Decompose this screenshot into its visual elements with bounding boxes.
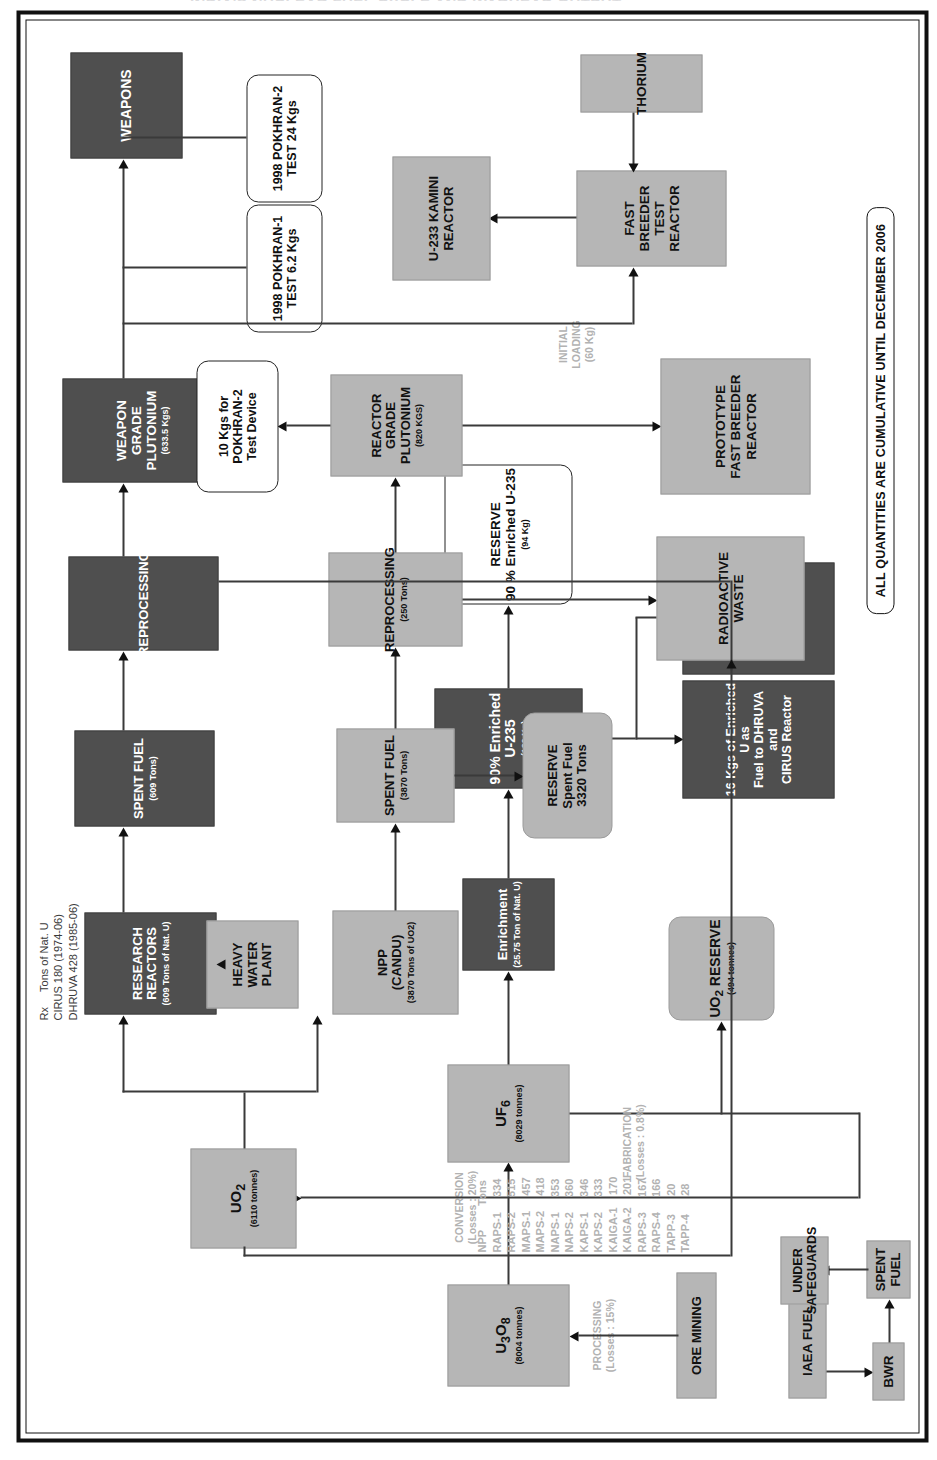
node-uo2-reserve[interactable]: UO2 RESERVE (494 tonnes) <box>668 916 774 1020</box>
node-spent-fuel-609-sub: (609 Tons) <box>147 756 157 800</box>
arrowhead-uf6-to-enrichment <box>503 971 513 980</box>
edge-mining-to-u3o8 <box>578 1335 678 1337</box>
label-initial-loading: INITIAL LOADING (60 Kg) <box>556 296 595 392</box>
node-thorium-label: THORIUM <box>633 52 648 115</box>
node-pfbr-label: PROTOTYPE FAST BREEDER REACTOR <box>712 374 757 478</box>
arrowhead-enriched-to-reserve <box>503 605 513 614</box>
node-uf6-label: UF6 <box>492 1100 512 1127</box>
node-under-safeguards-label: UNDER SAFEGUARDS <box>790 1226 818 1314</box>
node-reactor-grade-pu-label: REACTOR GRADE PLUTONIUM <box>369 386 413 463</box>
node-research-reactors-label: RESEARCH REACTORS <box>130 927 159 1000</box>
node-spent-fuel-3870[interactable]: SPENT FUEL (3870 Tons) <box>336 728 454 822</box>
node-npp-candu[interactable]: NPP (CANDU) (3870 Tons of UO2) <box>332 910 458 1014</box>
node-ore-mining[interactable]: ORE MINING <box>676 1272 716 1398</box>
node-thorium-box[interactable]: THORIUM <box>580 54 702 112</box>
edge-fbtr-to-kamini <box>496 217 576 219</box>
node-reserve-spent-fuel-label: RESERVE Spent Fuel 3320 Tons <box>545 742 589 808</box>
node-weapons-label: WEAPONS <box>118 69 134 141</box>
edge-reproc-to-wgpu <box>122 490 124 556</box>
node-weapon-grade-pu-label: WEAPON GRADE PLUTONIUM <box>113 390 158 470</box>
node-pokhran2[interactable]: 1998 POKHRAN-2 TEST 24 Kgs <box>246 74 322 202</box>
edge-uf6-to-enrichment <box>507 978 509 1064</box>
node-enrichment-label: Enrichment <box>495 888 510 960</box>
node-reserve-u235[interactable]: RESERVE 90 % Enriched U-235 (94 Kg) <box>444 464 572 604</box>
node-ore-mining-label: ORE MINING <box>689 1296 704 1375</box>
rotated-diagram-wrapper: ORE MINING PROCESSING (Losses : 15%) U3O… <box>0 0 937 1460</box>
node-iaea-fuel-label: IAEA FUEL <box>799 1305 814 1376</box>
node-research-reactors-sub: (609 Tons of Nat. U) <box>160 921 170 1005</box>
arrowhead-thorium-to-fbtr <box>628 163 638 172</box>
node-enriched-u235-label: 90% Enriched U-235 <box>487 689 518 787</box>
edge-enriched-to-reserve <box>507 612 509 688</box>
node-npp-candu-sub: (3870 Tons of UO2) <box>405 921 415 1002</box>
node-spent-fuel-3870-sub: (3870 Tons) <box>398 750 408 799</box>
arrowhead-to-uo2-reserve <box>716 1021 726 1030</box>
node-pfbr[interactable]: PROTOTYPE FAST BREEDER REACTOR <box>660 358 810 494</box>
node-reprocessing-npp[interactable]: REPROCESSING (250 Tons) <box>328 552 462 646</box>
edge-left-waste-h2 <box>730 660 732 1256</box>
node-reactor-grade-pu[interactable]: REACTOR GRADE PLUTONIUM (820 KGS) <box>330 374 462 476</box>
footer-note: ALL QUANTITIES ARE CUMULATIVE UNTIL DECE… <box>866 206 894 613</box>
node-enriched-16kg[interactable]: 16 Kgs of Enriched U as Fuel to DHRUVA a… <box>682 680 834 798</box>
node-fbtr[interactable]: FAST BREEDER TEST REACTOR <box>576 170 726 266</box>
node-uf6[interactable]: UF6 (8029 tonnes) <box>447 1064 569 1162</box>
arrowhead-left-to-waste <box>726 659 736 668</box>
arrowhead-hwp-to-rr <box>216 959 225 969</box>
edge-sf609-to-reproc <box>122 658 124 730</box>
node-reserve-u235-sub: (94 Kg) <box>519 519 529 550</box>
node-uo2[interactable]: UO2 (6110 tonnes) <box>190 1148 296 1248</box>
node-weapons[interactable]: WEAPONS <box>70 52 182 158</box>
node-heavy-water-plant-label: HEAVY WATER PLANT <box>230 941 274 987</box>
node-pokhran2-label: 1998 POKHRAN-2 TEST 24 Kgs <box>270 85 298 191</box>
node-spent-fuel-3870-label: SPENT FUEL <box>382 735 397 816</box>
arrowhead-uo2-to-npp <box>312 1015 322 1024</box>
node-research-reactors[interactable]: RESEARCH REACTORS (609 Tons of Nat. U) <box>84 912 216 1014</box>
node-u3o8-label: U3O8 <box>492 1317 512 1353</box>
node-enriched-16kg-label: 16 Kgs of Enriched U as Fuel to DHRUVA a… <box>723 681 793 797</box>
arrowhead-bwr-to-spentfuel <box>884 1299 894 1308</box>
node-bwr[interactable]: BWR <box>872 1342 904 1400</box>
edge-rgpu-to-device <box>286 425 330 427</box>
node-reprocessing-npp-sub: (250 Tons) <box>398 577 408 621</box>
edge-pokhran1-up <box>122 267 246 269</box>
node-enrichment[interactable]: Enrichment (25.75 Ton of Nat. U) <box>462 878 554 970</box>
node-u3o8[interactable]: U3O8 (8004 tonnes) <box>447 1284 569 1386</box>
node-under-safeguards[interactable]: UNDER SAFEGUARDS <box>780 1236 828 1304</box>
node-uo2-reserve-label: UO2 RESERVE <box>707 919 725 1017</box>
edge-reprocnpp-to-rgpu <box>394 484 396 552</box>
edge-reprocrr-waste-h <box>730 580 732 670</box>
node-reserve-spent-fuel[interactable]: RESERVE Spent Fuel 3320 Tons <box>522 712 612 838</box>
edge-to-uo2-reserve <box>720 1028 722 1114</box>
node-reprocessing-rr[interactable]: REPROCESSING <box>68 556 218 650</box>
node-uo2-label: UO2 <box>227 1183 247 1212</box>
diagram-canvas: ORE MINING PROCESSING (Losses : 15%) U3O… <box>0 0 937 1460</box>
node-pokhran2-device[interactable]: 10 Kgs for POKHRAN-2 Test Device <box>196 360 278 492</box>
node-spent-fuel-609[interactable]: SPENT FUEL (609 Tons) <box>74 730 214 826</box>
node-npp-candu-label: NPP (CANDU) <box>375 934 404 990</box>
diagram-page: INDIA'S NUCLEAR FUEL CYCLE AND WARHEAD O… <box>0 0 937 1460</box>
edge-uf6-down <box>569 1113 859 1115</box>
arrowhead-mining-to-u3o8 <box>569 1331 578 1341</box>
edge-fbtr-feed-h <box>632 274 634 324</box>
arrowhead-uo2-to-rr <box>118 1015 128 1024</box>
node-spent-fuel-bwr[interactable]: SPENT FUEL <box>866 1240 910 1298</box>
node-kamini[interactable]: U-233 KAMINI REACTOR <box>392 156 490 280</box>
edge-uo2-branch-v <box>122 1091 316 1093</box>
edge-left-waste-v <box>243 1255 730 1257</box>
research-reactor-table: Rx Tons of Nat. U CIRUS 180 (1974-06) DH… <box>36 903 79 1020</box>
edge-uo2-to-rr <box>122 1022 124 1092</box>
node-reactor-grade-pu-sub: (820 KGS) <box>413 404 423 447</box>
node-fbtr-label: FAST BREEDER TEST REACTOR <box>621 185 681 252</box>
node-spent-fuel-bwr-label: SPENT FUEL <box>873 1241 902 1297</box>
edge-rr-to-sf609 <box>122 834 124 912</box>
node-pokhran1[interactable]: 1998 POKHRAN-1 TEST 6.2 Kgs <box>246 204 322 332</box>
edge-rgpu-to-pfbr <box>462 425 656 427</box>
node-uo2-sub: (6110 tonnes) <box>248 1169 258 1227</box>
edge-sf3870-to-reproc <box>394 654 396 728</box>
arrowhead-reproc-to-wgpu <box>118 483 128 492</box>
edge-reprocrr-waste-v <box>218 581 730 583</box>
edge-left-waste-h1 <box>243 1246 245 1256</box>
node-pokhran2-device-label: 10 Kgs for POKHRAN-2 Test Device <box>216 389 258 463</box>
node-reprocessing-npp-label: REPROCESSING <box>382 547 397 652</box>
edge-enriched-to-16kg <box>635 738 678 740</box>
